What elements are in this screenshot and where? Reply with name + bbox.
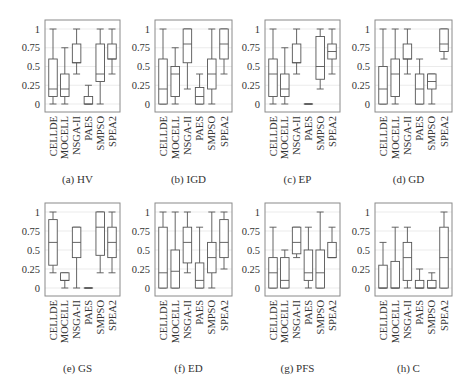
box-nsga-ii (403, 227, 412, 288)
box-cellde (159, 212, 168, 288)
x-tick-label: PAES (194, 300, 205, 325)
box-paes (415, 59, 424, 104)
subplot-pfs: 00.250.50.751CELLDEMOCELLNSGA-IIPAESSMPS… (242, 203, 340, 375)
x-tick-label: PAES (303, 116, 314, 141)
y-tick-label: 0.75 (22, 226, 40, 237)
x-tick-label: PAES (83, 300, 94, 325)
x-tick-label: CELLDE (268, 116, 279, 156)
x-tick-label: SMPSO (426, 300, 437, 335)
y-tick-label: 0.25 (352, 264, 370, 275)
box-spea2 (108, 29, 117, 74)
figure: 00.250.50.751CELLDEMOCELLNSGA-IIPAESSMPS… (0, 0, 473, 389)
y-tick-label: 1 (255, 24, 260, 35)
y-tick-label: 0.5 (357, 245, 370, 256)
y-tick-label: 0.25 (22, 264, 40, 275)
box-spea2 (108, 212, 117, 273)
x-tick-label: SPEA2 (219, 300, 230, 331)
box-mocell (391, 29, 400, 104)
y-tick-label: 1 (145, 24, 150, 35)
subplot-hv: 00.250.50.751CELLDEMOCELLNSGA-IIPAESSMPS… (22, 20, 120, 186)
box-mocell (391, 227, 400, 288)
x-tick-label: SPEA2 (107, 300, 118, 331)
x-tick-label: NSGA-II (291, 299, 302, 339)
x-tick-label: MOCELL (390, 300, 401, 343)
subplot-caption: (g) PFS (281, 362, 315, 375)
x-tick-label: NSGA-II (291, 115, 302, 155)
y-tick-label: 0.75 (242, 42, 260, 53)
x-tick-label: CELLDE (378, 300, 389, 340)
x-tick-label: SMPSO (426, 116, 437, 151)
y-tick-label: 0.75 (132, 42, 150, 53)
box-smpso (208, 212, 217, 288)
y-tick-label: 0.25 (242, 80, 260, 91)
x-tick-label: SMPSO (206, 300, 217, 335)
subplot-caption: (d) GD (393, 173, 425, 186)
subplot-caption: (b) IGD (171, 173, 206, 186)
x-tick-label: MOCELL (59, 300, 70, 343)
y-tick-label: 0.5 (357, 61, 370, 72)
y-tick-label: 0.75 (132, 226, 150, 237)
x-tick-label: CELLDE (48, 300, 59, 340)
subplot-caption: (c) EP (284, 173, 312, 186)
box-mocell (171, 212, 180, 288)
box-cellde (49, 29, 58, 104)
y-tick-label: 1 (35, 24, 40, 35)
y-tick-label: 0.25 (132, 264, 150, 275)
box-nsga-ii (292, 29, 301, 74)
subplot-igd: 00.250.50.751CELLDEMOCELLNSGA-IIPAESSMPS… (132, 20, 232, 186)
y-tick-label: 1 (255, 207, 260, 218)
y-tick-label: 1 (365, 207, 370, 218)
box-smpso (96, 29, 105, 104)
x-tick-label: CELLDE (48, 116, 59, 156)
x-tick-label: CELLDE (378, 116, 389, 156)
y-tick-label: 0.5 (27, 61, 40, 72)
y-tick-label: 0.5 (137, 61, 150, 72)
x-tick-label: MOCELL (170, 116, 181, 159)
y-tick-label: 1 (145, 207, 150, 218)
x-tick-label: PAES (194, 116, 205, 141)
box-nsga-ii (403, 29, 412, 74)
box-cellde (379, 29, 388, 104)
y-tick-label: 0 (35, 283, 40, 294)
box-mocell (61, 273, 70, 288)
box-paes (195, 74, 204, 104)
box-spea2 (328, 29, 337, 74)
box-nsga-ii (292, 227, 301, 257)
y-tick-label: 0 (255, 99, 260, 110)
box-smpso (316, 29, 325, 89)
box-cellde (269, 227, 278, 288)
y-tick-label: 0.5 (137, 245, 150, 256)
subplot-caption: (f) ED (174, 362, 202, 375)
x-tick-label: SPEA2 (219, 116, 230, 147)
box-mocell (281, 250, 290, 288)
subplot-c: 00.250.50.751CELLDEMOCELLNSGA-IIPAESSMPS… (352, 203, 452, 375)
x-tick-label: SPEA2 (107, 116, 118, 147)
x-tick-label: PAES (83, 116, 94, 141)
box-paes (415, 269, 424, 288)
box-nsga-ii (183, 29, 192, 89)
box-mocell (61, 48, 70, 104)
box-smpso (208, 29, 217, 104)
x-tick-label: NSGA-II (402, 115, 413, 155)
x-tick-label: PAES (414, 300, 425, 325)
box-spea2 (440, 29, 449, 59)
box-cellde (269, 29, 278, 104)
y-tick-label: 0.5 (247, 61, 260, 72)
x-tick-label: MOCELL (59, 116, 70, 159)
y-tick-label: 0.75 (352, 42, 370, 53)
box-cellde (159, 29, 168, 104)
y-tick-label: 0.75 (22, 42, 40, 53)
box-paes (84, 85, 93, 104)
box-nsga-ii (183, 212, 192, 273)
subplot-gs: 00.250.50.751CELLDEMOCELLNSGA-IIPAESSMPS… (22, 203, 120, 375)
y-tick-label: 1 (365, 24, 370, 35)
y-tick-label: 0 (255, 283, 260, 294)
x-tick-label: SPEA2 (439, 116, 450, 147)
box-smpso (96, 212, 105, 273)
box-spea2 (220, 212, 229, 269)
x-tick-label: PAES (303, 300, 314, 325)
subplot-gd: 00.250.50.751CELLDEMOCELLNSGA-IIPAESSMPS… (352, 20, 452, 186)
box-smpso (316, 212, 325, 288)
x-tick-label: MOCELL (279, 116, 290, 159)
x-tick-label: SMPSO (315, 300, 326, 335)
